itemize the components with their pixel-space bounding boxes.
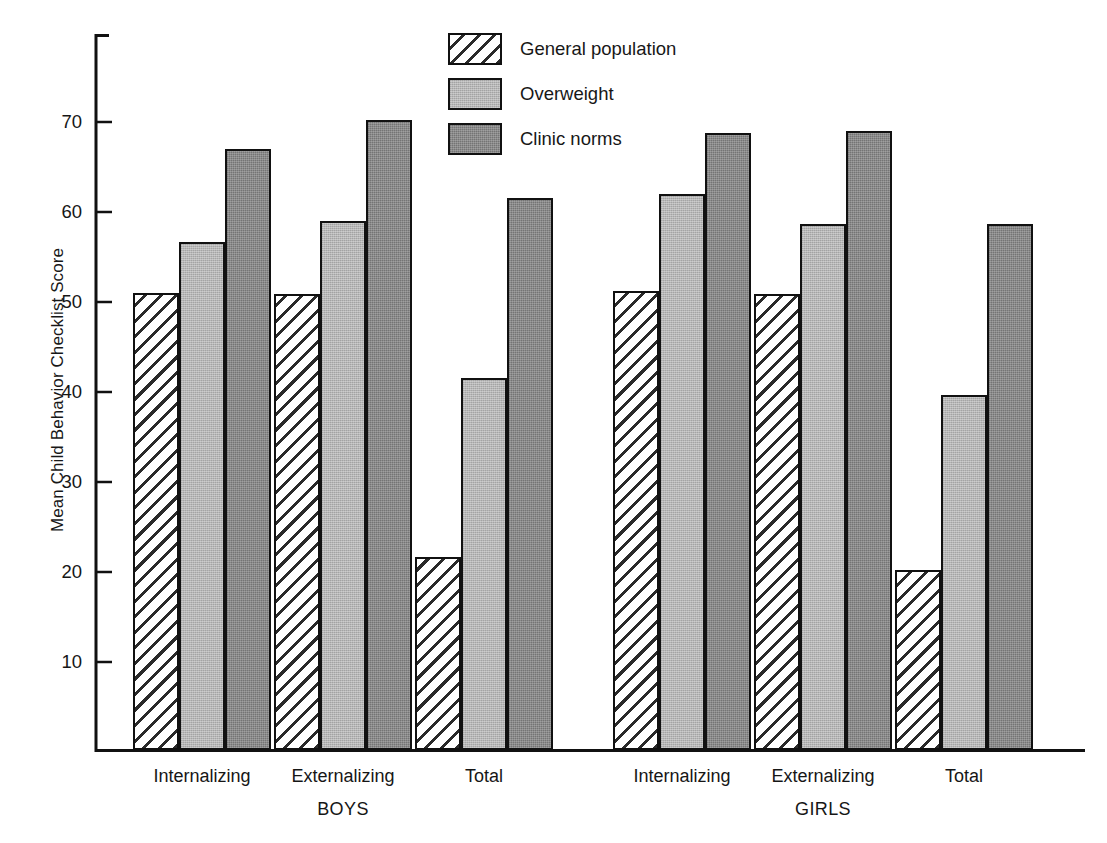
bar-boys-internalizing-general-population bbox=[133, 293, 179, 750]
legend-label-general-population: General population bbox=[520, 38, 676, 60]
legend-item-overweight: Overweight bbox=[448, 75, 676, 112]
bar-boys-total-overweight bbox=[461, 378, 507, 750]
bar-girls-externalizing-clinic-norms bbox=[846, 131, 892, 750]
bar-girls-externalizing-general-population bbox=[754, 294, 800, 750]
x-category-label-boys-externalizing: Externalizing bbox=[291, 766, 394, 787]
x-group-label-girls: GIRLS bbox=[795, 799, 851, 820]
bar-boys-total-general-population bbox=[415, 557, 461, 751]
x-category-label-girls-total: Total bbox=[945, 766, 983, 787]
bar-boys-total-clinic-norms bbox=[507, 198, 553, 750]
bar-boys-internalizing-clinic-norms bbox=[225, 149, 271, 750]
bar-girls-internalizing-clinic-norms bbox=[705, 133, 751, 750]
bar-girls-externalizing-overweight bbox=[800, 224, 846, 751]
x-category-label-girls-externalizing: Externalizing bbox=[771, 766, 874, 787]
bar-boys-internalizing-overweight bbox=[179, 242, 225, 750]
x-category-label-boys-total: Total bbox=[465, 766, 503, 787]
bar-girls-internalizing-overweight bbox=[659, 194, 705, 750]
legend-swatch-clinic-norms bbox=[448, 123, 502, 155]
x-group-label-boys: BOYS bbox=[317, 799, 369, 820]
x-category-label-boys-internalizing: Internalizing bbox=[153, 766, 250, 787]
legend-item-general-population: General population bbox=[448, 30, 676, 67]
bar-girls-internalizing-general-population bbox=[613, 291, 659, 750]
bar-girls-total-clinic-norms bbox=[987, 224, 1033, 751]
legend-swatch-overweight bbox=[448, 78, 502, 110]
bar-boys-externalizing-overweight bbox=[320, 221, 366, 750]
bar-girls-total-overweight bbox=[941, 395, 987, 751]
legend-label-overweight: Overweight bbox=[520, 83, 614, 105]
bar-girls-total-general-population bbox=[895, 570, 941, 750]
x-category-label-girls-internalizing: Internalizing bbox=[633, 766, 730, 787]
chart-legend: General population Overweight Clinic nor… bbox=[448, 30, 676, 165]
legend-label-clinic-norms: Clinic norms bbox=[520, 128, 622, 150]
bar-boys-externalizing-clinic-norms bbox=[366, 120, 412, 750]
legend-swatch-general-population bbox=[448, 33, 502, 65]
bar-chart-figure: Mean Child Behavior Checklist Score 70 6… bbox=[0, 0, 1107, 843]
legend-item-clinic-norms: Clinic norms bbox=[448, 120, 676, 157]
bar-boys-externalizing-general-population bbox=[274, 294, 320, 750]
